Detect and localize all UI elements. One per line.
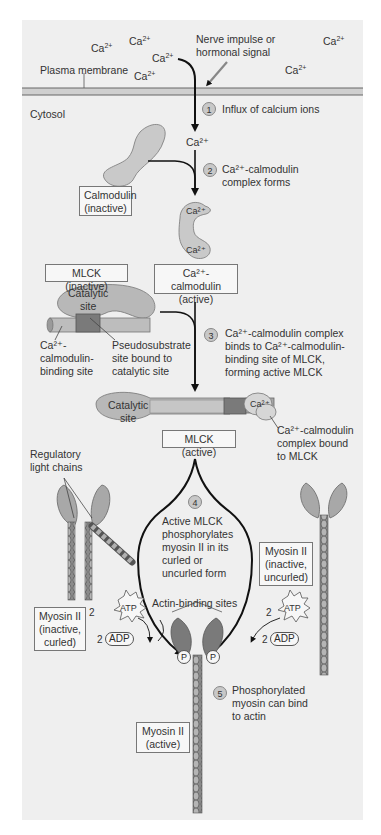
cytosol-label: Cytosol [30,108,65,121]
myosin-active-label: Myosin II(active) [136,722,190,753]
ca-ion: Ca2+ [323,35,344,48]
step-1-badge: 1 [202,102,216,116]
mlck-inactive-label: MLCK (inactive) [45,264,128,282]
step-3-text: Ca²⁺-calmodulin complexbinds to Ca²⁺-cal… [225,327,345,379]
step-2-badge: 2 [203,163,217,177]
step-3-badge: 3 [204,328,218,342]
myosin-uncurled-label: Myosin II(inactive,uncurled) [259,542,313,586]
adp-right: ADP [270,632,299,646]
phosphate-right: P [206,650,220,664]
atp-right: ATP [284,602,301,615]
ca-ion: Ca2+ [285,64,306,77]
catalytic-site-active-label: Catalyticsite [108,399,148,425]
ca-on-mlck: Ca²⁺ [250,398,270,411]
atp-left: ATP [120,602,137,615]
step-2-text: Ca²⁺-calmodulincomplex forms [222,163,299,189]
myosin-active-shape [171,602,223,813]
ca-ion: Ca2+ [152,52,173,65]
step-4-badge: 4 [188,495,202,509]
complex-bound-label: Ca²⁺-calmodulincomplex boundto MLCK [277,424,354,463]
signal-label: Nerve impulse orhormonal signal [196,33,275,59]
step-4-text: Active MLCKphosphorylatesmyosin II in it… [162,515,233,580]
ca-ion: Ca2+ [91,42,112,55]
phosphate-left: P [177,650,191,664]
actin-binding-sites-label: Actin-binding sites [152,597,237,610]
calmodulin-inactive-shape [103,124,165,186]
ca-bound-bottom: Ca²⁺ [186,244,206,257]
atp-coeff-left: 2 [89,606,95,619]
step-1-text: Influx of calcium ions [222,103,319,116]
catalytic-site-label: Catalyticsite [68,287,108,313]
pathway-artwork [0,0,381,835]
ca-bound-top: Ca²⁺ [186,205,206,218]
myosin-curled-label: Myosin II(inactive,curled) [34,607,86,651]
regulatory-light-chains-label: Regulatorylight chains [30,448,83,474]
ca-ion: Ca2+ [134,70,155,83]
binding-site-label: Ca²⁺-calmodulin-binding site [40,339,94,378]
mlck-active-label: MLCK (active) [162,430,236,448]
ca-inside-label: Ca²⁺ [186,136,209,149]
adp-left: ADP [105,632,134,646]
pseudosubstrate-label: Pseudosubstratesite bound tocatalytic si… [112,339,191,378]
ca-ion: Ca2+ [129,35,150,48]
plasma-membrane-label: Plasma membrane [40,64,128,77]
signal-arrow [208,62,227,84]
myosin-curled-shape [57,478,132,600]
calmodulin-inactive-label: Calmodulin(inactive) [79,186,132,216]
step-5-text: Phosphorylatedmyosin can bindto actin [232,684,308,723]
adp-coeff-left: 2 [97,633,103,646]
adp-coeff-right: 2 [262,633,268,646]
step-5-badge: 5 [213,686,227,700]
calmodulin-active-label: Ca²⁺-calmodulin(active) [154,264,238,294]
atp-coeff-right: 2 [266,606,272,619]
step2-arrow [148,161,195,192]
